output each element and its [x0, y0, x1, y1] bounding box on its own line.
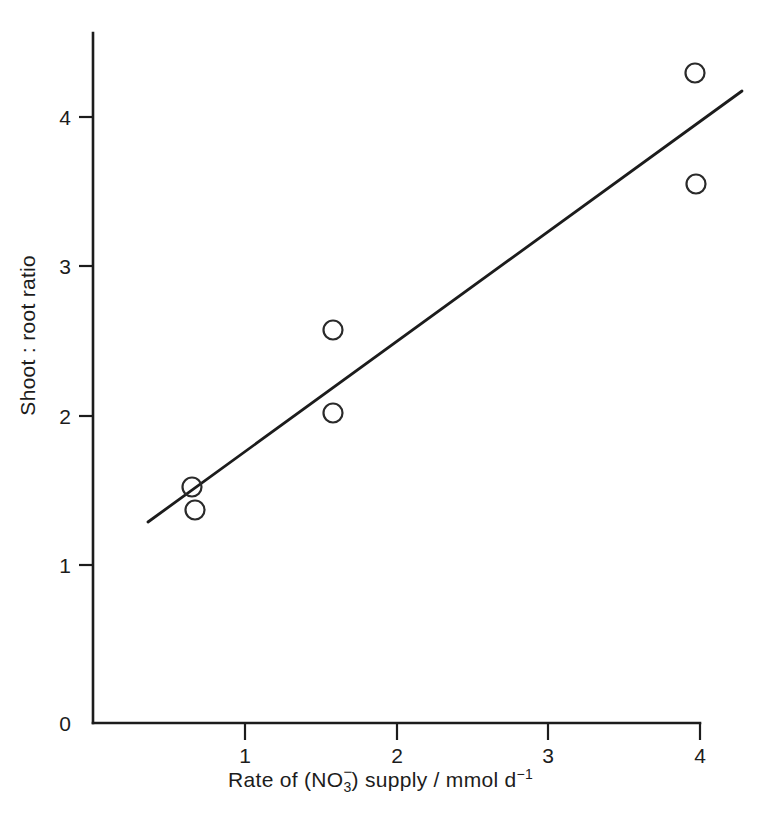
nitrate-charge: − — [343, 763, 352, 780]
x-title-close: ) supply / mmol d — [352, 768, 517, 791]
nitrate-formula: 3− — [343, 768, 351, 792]
x-tick-label-3: 3 — [542, 745, 554, 766]
y-tick-label-2: 2 — [59, 406, 71, 427]
y-axis-title: Shoot : root ratio — [16, 255, 40, 416]
x-tick-label-2: 2 — [391, 745, 403, 766]
y-tick-label-3: 3 — [59, 256, 71, 277]
data-point — [324, 404, 343, 423]
data-point — [324, 321, 343, 340]
figure-container: 0 1 2 3 4 1 2 3 4 Shoot : root ratio Rat… — [0, 0, 761, 832]
scatter-plot-canvas — [0, 0, 761, 832]
data-point — [686, 64, 705, 83]
data-point — [687, 175, 706, 194]
y-tick-label-4: 4 — [59, 107, 71, 128]
y-tick-label-1: 1 — [59, 555, 71, 576]
data-markers — [183, 64, 706, 520]
nitrate-subscript: 3 — [343, 779, 351, 795]
unit-exponent: −1 — [517, 766, 533, 782]
y-tick-label-0: 0 — [59, 713, 71, 734]
x-tick-label-1: 1 — [239, 745, 251, 766]
trendline — [148, 91, 742, 522]
x-title-lead: Rate of (NO — [228, 768, 343, 791]
data-point — [186, 501, 205, 520]
x-axis-ticks — [245, 723, 700, 740]
x-tick-label-4: 4 — [694, 745, 706, 766]
x-axis-title: Rate of (NO3−) supply / mmol d−1 — [0, 768, 761, 792]
data-point — [183, 478, 202, 497]
y-axis-ticks — [79, 117, 93, 565]
